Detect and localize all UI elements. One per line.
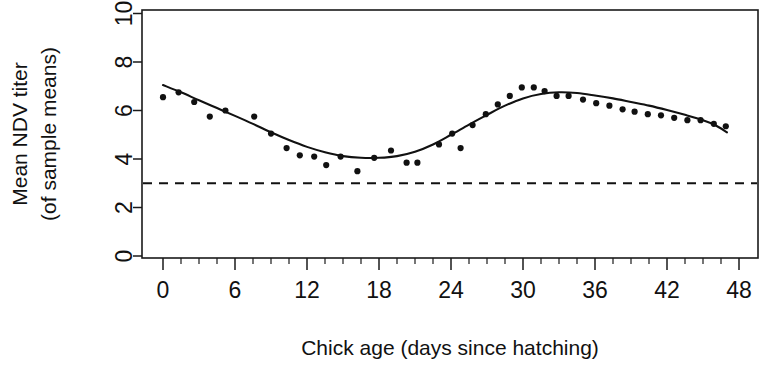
x-tick-label-24: 24: [438, 277, 464, 303]
y-tick-label-10: 10: [111, 1, 137, 27]
y-axis-label-line1: Mean NDV titer: [8, 62, 31, 206]
y-tick-label-0: 0: [111, 250, 137, 263]
data-point: [620, 106, 626, 112]
data-point: [507, 93, 513, 99]
data-point: [723, 123, 729, 129]
data-point: [519, 84, 525, 90]
data-point: [284, 145, 290, 151]
data-point: [354, 168, 360, 174]
data-point: [371, 155, 377, 161]
data-point: [470, 122, 476, 128]
x-tick-label-0: 0: [157, 277, 170, 303]
data-point: [645, 111, 651, 117]
y-tick-label-8: 8: [111, 56, 137, 69]
data-point: [698, 117, 704, 123]
x-tick-label-42: 42: [654, 277, 680, 303]
x-tick-label-6: 6: [229, 277, 242, 303]
x-axis-label: Chick age (days since hatching): [301, 336, 599, 359]
data-point: [606, 103, 612, 109]
y-tick-label-4: 4: [111, 152, 137, 165]
x-tick-label-36: 36: [582, 277, 608, 303]
data-point: [449, 130, 455, 136]
ndv-titer-scatter-chart: 0246810 0612182430364248 Mean NDV titer …: [0, 0, 764, 372]
data-point: [176, 89, 182, 95]
data-point: [323, 162, 329, 168]
x-tick-label-18: 18: [366, 277, 392, 303]
data-point: [388, 147, 394, 153]
y-tick-label-2: 2: [111, 201, 137, 214]
y-tick-label-6: 6: [111, 104, 137, 117]
data-point: [222, 107, 228, 113]
data-point: [483, 111, 489, 117]
data-point: [554, 93, 560, 99]
chart-figure: 0246810 0612182430364248 Mean NDV titer …: [0, 0, 764, 372]
data-point: [458, 145, 464, 151]
data-point: [671, 115, 677, 121]
data-point: [414, 160, 420, 166]
data-point: [338, 153, 344, 159]
data-point: [311, 153, 317, 159]
data-point: [593, 100, 599, 106]
data-point: [684, 117, 690, 123]
x-tick-label-30: 30: [510, 277, 536, 303]
data-point: [251, 113, 257, 119]
data-point: [711, 121, 717, 127]
data-point: [495, 101, 501, 107]
data-point: [658, 112, 664, 118]
data-point: [297, 152, 303, 158]
data-point: [580, 96, 586, 102]
data-point: [191, 99, 197, 105]
x-tick-label-48: 48: [726, 277, 752, 303]
x-tick-label-12: 12: [294, 277, 320, 303]
data-point: [632, 109, 638, 115]
y-axis-label-line2: (of sample means): [37, 47, 60, 221]
data-point: [436, 141, 442, 147]
data-point: [268, 130, 274, 136]
data-point: [542, 88, 548, 94]
data-point: [207, 113, 213, 119]
data-point: [404, 160, 410, 166]
data-point: [566, 93, 572, 99]
data-point: [531, 84, 537, 90]
data-point: [160, 94, 166, 100]
